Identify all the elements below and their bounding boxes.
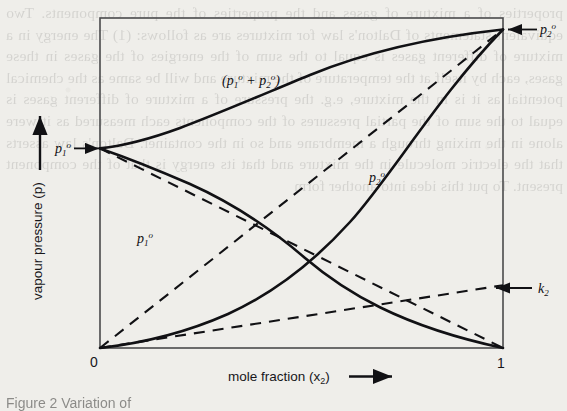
label-total-pressure: (p1o + p2o) <box>222 72 280 90</box>
curve-total-vapour-pressure <box>100 30 503 149</box>
henry-law-line-k2 <box>100 285 503 348</box>
x-tick-label-0: 0 <box>90 354 98 370</box>
plot-frame <box>100 18 503 348</box>
label-axis-p2: p2o <box>539 21 557 39</box>
x-axis-label: mole fraction (x2) <box>228 369 330 386</box>
y-axis-label: vapour pressure (p) <box>30 182 45 300</box>
label-curve-p1: p1o <box>136 230 154 248</box>
raoult-line-component-1 <box>100 148 503 348</box>
label-k2: k2 <box>538 281 549 298</box>
x-tick-label-1: 1 <box>497 355 505 371</box>
label-curve-p2: p2o <box>368 169 386 187</box>
figure-caption: Figure 2 Variation of <box>6 395 131 411</box>
label-axis-p1: p1o <box>54 140 72 158</box>
